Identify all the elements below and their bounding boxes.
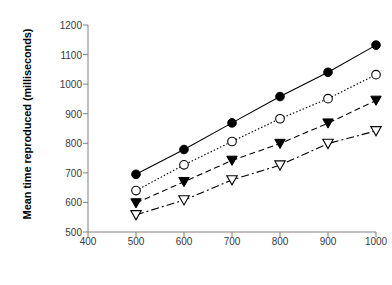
data-point-filled-circle [132,170,141,179]
data-point-filled-circle [276,92,285,101]
data-point-open-circle [180,161,189,170]
data-point-filled-circle [228,119,237,128]
data-point-filled-triangle-down [323,119,333,128]
data-point-filled-triangle-down [371,96,381,105]
data-point-open-circle [372,70,381,79]
data-point-open-circle [228,137,237,146]
data-point-open-circle [324,94,333,103]
data-series-layer [131,41,381,220]
x-axis-ticks [88,232,376,237]
data-point-open-triangle-down [179,196,189,205]
y-axis-ticks [83,25,88,232]
data-series-series-1 [132,41,381,179]
data-point-filled-circle [372,41,381,50]
data-point-filled-circle [180,145,189,154]
data-point-filled-triangle-down [179,177,189,186]
series-line [136,45,376,174]
data-point-filled-triangle-down [275,139,285,148]
series-line [136,100,376,203]
data-point-open-triangle-down [227,176,237,185]
data-point-open-circle [132,186,141,195]
data-point-open-circle [276,114,285,123]
series-line [136,131,376,215]
data-point-open-triangle-down [275,161,285,170]
data-series-series-2 [132,70,381,195]
data-point-filled-triangle-down [227,156,237,165]
axes [83,25,376,237]
data-point-filled-triangle-down [131,199,141,208]
data-series-series-4 [131,127,381,220]
data-point-open-triangle-down [131,211,141,220]
data-point-open-triangle-down [323,139,333,148]
data-point-filled-circle [324,68,333,77]
data-series-series-3 [131,96,381,208]
series-line [136,75,376,191]
data-point-open-triangle-down [371,127,381,136]
